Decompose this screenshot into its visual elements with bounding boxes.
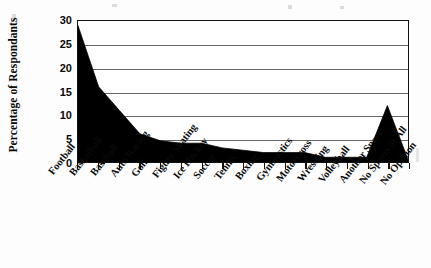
chart-page: Percentage of Respondants 302520151050 F…	[0, 0, 431, 268]
scan-speckle	[112, 4, 117, 7]
plot-area	[77, 20, 409, 163]
y-tick-label: 25	[28, 38, 72, 50]
y-axis-title: Percentage of Respondants	[0, 0, 26, 170]
scan-speckle	[416, 148, 419, 162]
area-fill	[78, 26, 408, 162]
y-axis-title-text: Percentage of Respondants	[7, 17, 19, 152]
area-series	[78, 21, 408, 162]
y-tick-label: 30	[28, 14, 72, 26]
x-axis-tick-labels: FootballBasketballBaseballAuto RacingGol…	[0, 168, 431, 268]
scan-speckle	[288, 5, 292, 9]
y-tick-label: 20	[28, 62, 72, 74]
y-tick-label: 10	[28, 109, 72, 121]
y-tick-label: 15	[28, 86, 72, 98]
scan-speckle	[340, 6, 344, 9]
